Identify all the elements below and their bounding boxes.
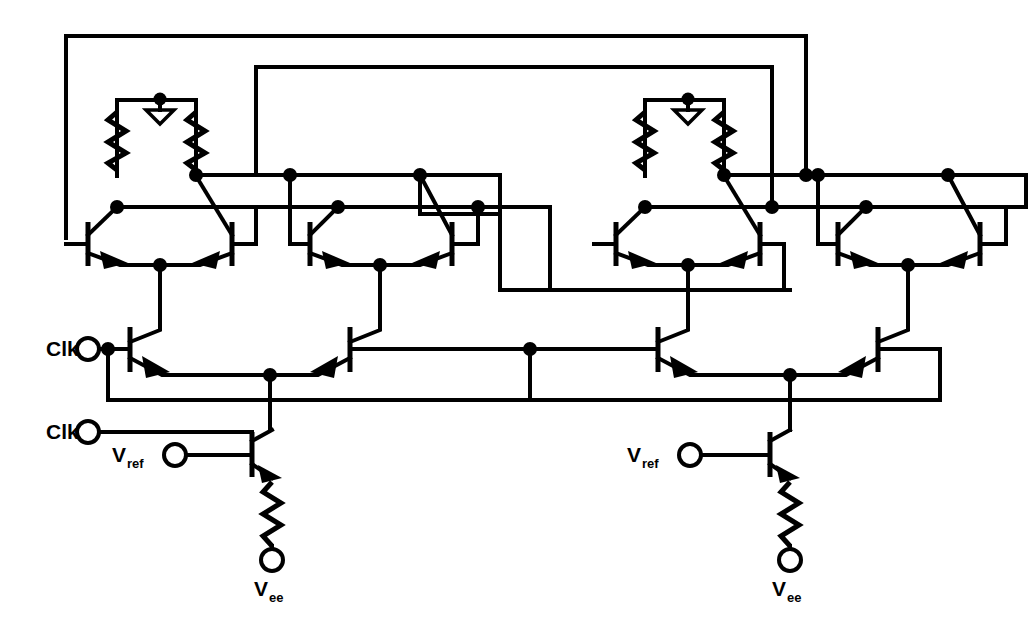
net-feedback-inner xyxy=(256,67,772,207)
ground-symbol-left xyxy=(146,93,174,125)
label-vref-right: V xyxy=(627,443,641,466)
diff-pair-1 xyxy=(66,176,256,342)
ground-symbol-right xyxy=(674,93,702,125)
label-vee-left: V xyxy=(254,577,268,600)
terminal-vref-right[interactable] xyxy=(679,444,701,466)
diff-pair-2 xyxy=(290,175,478,342)
label-clk-bottom: Clk xyxy=(46,420,79,443)
terminal-vref-left[interactable] xyxy=(164,444,186,466)
label-vref-left: V xyxy=(112,443,126,466)
current-source-master xyxy=(175,430,282,552)
label-clk-top: Clk xyxy=(46,337,79,360)
label-vref-right-sub: ref xyxy=(642,456,659,471)
label-vref-left-sub: ref xyxy=(127,456,144,471)
terminal-vee-right[interactable] xyxy=(779,549,801,571)
schematic-canvas: Clk Clk V ref V ref V ee V ee xyxy=(0,0,1031,621)
label-vee-right: V xyxy=(772,577,786,600)
label-vee-left-sub: ee xyxy=(269,590,283,605)
circuit-schematic: Clk Clk V ref V ref V ee V ee xyxy=(0,0,1031,621)
net-master-to-slave xyxy=(420,175,550,290)
terminal-clk-bottom[interactable] xyxy=(77,421,99,443)
terminal-vee-left[interactable] xyxy=(261,549,283,571)
diff-pair-4 xyxy=(818,175,1006,342)
diff-pair-3 xyxy=(594,176,790,342)
clock-pair-master xyxy=(88,327,537,430)
label-vee-right-sub: ee xyxy=(787,590,801,605)
clock-pair-slave xyxy=(108,327,940,430)
terminal-clk-top[interactable] xyxy=(77,338,99,360)
current-source-slave xyxy=(690,430,800,552)
